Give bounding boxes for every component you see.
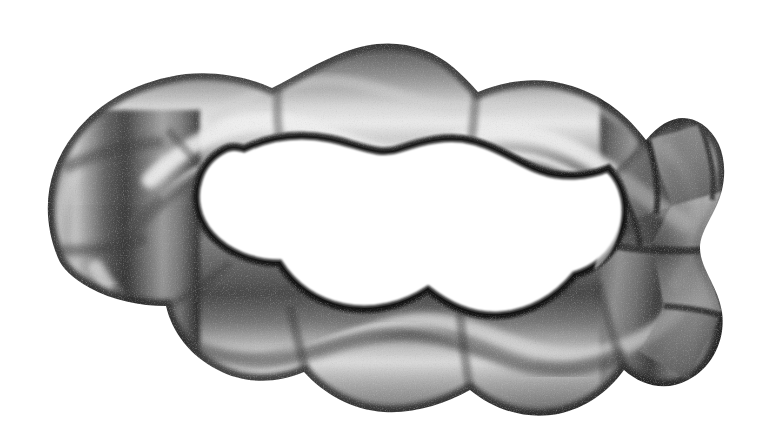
figure-canvas [0,0,761,438]
twisted-torus-render [0,0,761,438]
